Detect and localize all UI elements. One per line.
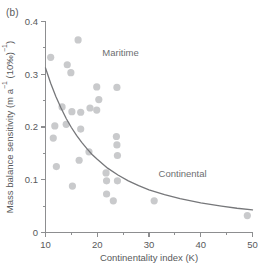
y-axis-title: Mass balance sensitivity (m a−1 (10‰)−1): [0, 41, 14, 213]
axes: [46, 22, 253, 233]
data-point: [68, 108, 75, 115]
data-point: [77, 126, 84, 133]
x-tick-label: 20: [92, 239, 103, 250]
data-point: [76, 157, 83, 164]
x-tick-label: 50: [247, 239, 258, 250]
data-point: [103, 190, 110, 197]
data-point: [110, 197, 117, 204]
data-point: [114, 177, 121, 184]
x-tick-label: 40: [195, 239, 206, 250]
data-point: [69, 182, 76, 189]
data-point: [102, 169, 109, 176]
data-point: [113, 84, 120, 91]
data-point: [151, 197, 158, 204]
data-point: [244, 212, 251, 219]
data-points: [47, 36, 251, 219]
x-axis-title: Continentality index (K): [100, 252, 198, 263]
x-tick-label: 10: [40, 239, 51, 250]
data-point: [113, 141, 120, 148]
data-point: [64, 61, 71, 68]
data-point: [50, 134, 57, 141]
y-tick-label: 0.2: [25, 121, 38, 132]
data-point: [93, 107, 100, 114]
data-point: [114, 152, 121, 159]
data-point: [47, 54, 54, 61]
plot-annotations: MaritimeContinental: [102, 47, 206, 179]
data-point: [86, 104, 93, 111]
axis-tick-labels: 00.10.20.30.41020304050: [25, 16, 258, 250]
data-point: [75, 36, 82, 43]
fit-curve: [46, 68, 253, 210]
y-tick-label: 0.4: [25, 16, 38, 27]
figure-panel-b: (b) 00.10.20.30.41020304050 MaritimeCont…: [0, 0, 269, 266]
annotation-continental: Continental: [159, 168, 207, 179]
y-tick-label: 0.3: [25, 69, 38, 80]
data-point: [113, 133, 120, 140]
y-tick-label: 0: [33, 227, 38, 238]
data-point: [67, 69, 74, 76]
annotation-maritime: Maritime: [102, 47, 138, 58]
data-point: [53, 163, 60, 170]
scatter-plot: 00.10.20.30.41020304050 MaritimeContinen…: [0, 0, 269, 266]
y-tick-label: 0.1: [25, 174, 38, 185]
data-point: [103, 177, 110, 184]
data-point: [95, 96, 102, 103]
x-tick-label: 30: [144, 239, 155, 250]
fit-curve-path: [46, 68, 253, 210]
data-point: [93, 83, 100, 90]
data-point: [51, 122, 58, 129]
data-point: [77, 109, 84, 116]
